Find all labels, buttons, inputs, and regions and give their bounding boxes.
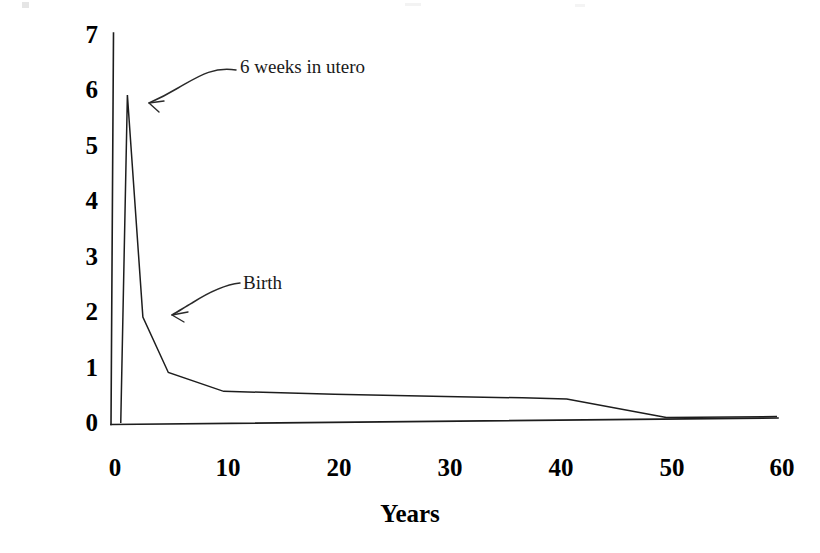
oocyte-data-curve (121, 95, 777, 423)
annotation-label-birth: Birth (243, 272, 282, 294)
scan-artifact (575, 4, 585, 7)
x-tick-label-20: 20 (309, 455, 369, 481)
annotation-label-six-weeks-in-utero: 6 weeks in utero (240, 56, 365, 78)
annotation-arrowhead-birth (172, 312, 188, 322)
y-axis-title-wrapper: Millions of Oocytes (0, 210, 244, 254)
x-axis-title: Years (0, 500, 820, 528)
x-tick-label-0: 0 (85, 455, 145, 481)
y-tick-label-2: 2 (52, 299, 98, 325)
x-tick-label-60: 60 (752, 455, 812, 481)
x-tick-label-40: 40 (531, 455, 591, 481)
y-tick-label-7: 7 (52, 22, 98, 48)
annotation-arrow-birth (172, 283, 240, 315)
annotation-arrow-six-weeks-in-utero (149, 69, 236, 103)
annotation-arrowhead-six-weeks-in-utero (149, 101, 164, 112)
y-tick-label-4: 4 (52, 188, 98, 214)
x-tick-label-50: 50 (642, 455, 702, 481)
x-tick-label-30: 30 (420, 455, 480, 481)
scan-artifact (22, 2, 29, 8)
oocyte-decline-figure: Millions of Oocytes 7 6 5 4 3 2 1 0 0 10… (0, 0, 820, 553)
y-tick-label-3: 3 (52, 244, 98, 270)
y-tick-label-0: 0 (52, 410, 98, 436)
x-axis-line (111, 418, 778, 425)
y-tick-label-1: 1 (52, 355, 98, 381)
x-tick-label-10: 10 (198, 455, 258, 481)
y-tick-label-6: 6 (52, 77, 98, 103)
y-tick-label-5: 5 (52, 133, 98, 159)
scan-artifact (405, 3, 421, 6)
